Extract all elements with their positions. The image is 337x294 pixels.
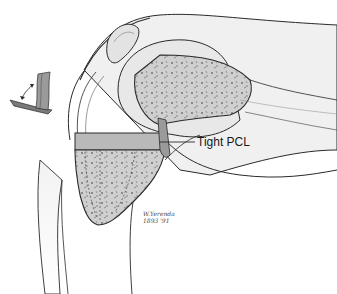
signature-name: W.Yerenda xyxy=(143,210,175,217)
knee-illustration xyxy=(0,0,337,294)
flexion-book-icon xyxy=(10,72,52,114)
pcl-label: Tight PCL xyxy=(197,135,250,149)
flexion-arrow-icon xyxy=(22,85,32,98)
patellar-tendon-outer xyxy=(68,70,85,140)
tibial-cut-block xyxy=(75,133,165,150)
artist-signature: W.Yerenda 1893 '91 xyxy=(143,210,175,224)
signature-date: 1893 '91 xyxy=(143,217,175,224)
lower-leg-outline xyxy=(38,160,62,294)
patellar-tendon-inner xyxy=(77,72,96,140)
